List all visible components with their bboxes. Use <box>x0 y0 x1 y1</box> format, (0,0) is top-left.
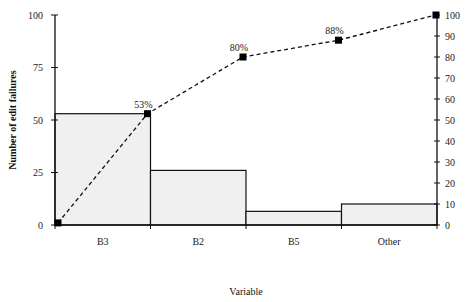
percent-label: 80% <box>230 42 248 53</box>
x-axis-title: Variable <box>229 286 263 297</box>
x-category-label: B5 <box>288 236 300 247</box>
bar-b3 <box>55 114 151 225</box>
right-tick-label: 100 <box>445 10 460 21</box>
cumulative-marker <box>55 219 62 226</box>
left-tick-label: 75 <box>33 62 43 73</box>
right-tick-label: 80 <box>445 52 455 63</box>
x-category-label: B2 <box>192 236 204 247</box>
right-tick-label: 50 <box>445 115 455 126</box>
right-tick-label: 90 <box>445 31 455 42</box>
bar-b2 <box>151 170 247 225</box>
right-tick-label: 30 <box>445 157 455 168</box>
right-tick-label: 40 <box>445 136 455 147</box>
cumulative-marker <box>240 54 247 61</box>
bar-other <box>342 204 438 225</box>
right-tick-label: 10 <box>445 199 455 210</box>
left-tick-label: 50 <box>33 115 43 126</box>
x-category-label: B3 <box>97 236 109 247</box>
y-axis-title: Number of edit failures <box>7 70 18 169</box>
left-tick-label: 25 <box>33 167 43 178</box>
bar-b5 <box>246 211 342 225</box>
pareto-chart: 02550751000102030405060708090100B3B2B5Ot… <box>0 0 471 302</box>
left-tick-label: 0 <box>38 220 43 231</box>
cumulative-marker <box>433 12 440 19</box>
cumulative-marker <box>144 110 151 117</box>
left-tick-label: 100 <box>28 10 43 21</box>
right-tick-label: 70 <box>445 73 455 84</box>
right-tick-label: 60 <box>445 94 455 105</box>
x-category-label: Other <box>378 236 401 247</box>
percent-label: 88% <box>325 25 343 36</box>
cumulative-marker <box>335 37 342 44</box>
right-tick-label: 0 <box>445 220 450 231</box>
percent-label: 53% <box>134 99 152 110</box>
right-tick-label: 20 <box>445 178 455 189</box>
bars-group <box>55 114 437 225</box>
